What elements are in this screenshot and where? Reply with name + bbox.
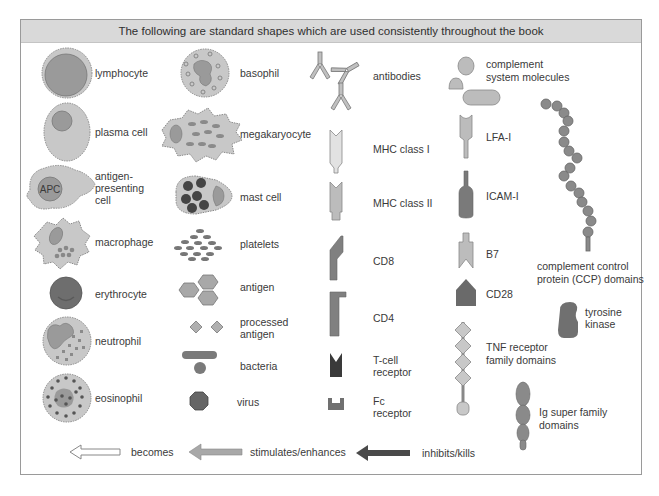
svg-text:APC: APC: [40, 184, 61, 195]
label-cd28: CD28: [486, 288, 513, 300]
basophil-icon: [181, 49, 229, 97]
label-tnf-line1: TNF receptor: [486, 341, 548, 353]
erythrocyte-icon: [50, 277, 82, 309]
label-megakaryocyte: megakaryocyte: [240, 128, 311, 140]
label-ccp-line2: protein (CCP) domains: [537, 273, 644, 285]
label-erythrocyte: erythrocyte: [95, 288, 147, 300]
label-eosinophil: eosinophil: [95, 392, 142, 404]
label-fc-line2: receptor: [373, 407, 412, 419]
label-plasma-cell: plasma cell: [95, 126, 148, 138]
label-apc-line2: presenting: [95, 182, 144, 194]
label-macrophage: macrophage: [95, 236, 153, 248]
processed-antigen-icon: [190, 321, 223, 333]
label-neutrophil: neutrophil: [95, 335, 141, 347]
mast-cell-icon: [176, 176, 232, 214]
label-complement-line2: system molecules: [486, 71, 569, 83]
label-ig-superfamily-line1: Ig super family: [539, 406, 607, 418]
platelets-icon: [174, 229, 222, 261]
mhc-class-2-icon: [330, 182, 342, 220]
icam-1-icon: [459, 171, 473, 218]
cd8-icon: [330, 236, 343, 280]
tyrosine-kinase-icon: [558, 302, 578, 338]
antibodies-icon: [310, 52, 363, 110]
antigen-icon: [179, 275, 218, 305]
label-b7: B7: [486, 248, 499, 260]
lymphocyte-icon: [42, 48, 92, 98]
label-tcr-line2: receptor: [373, 366, 412, 378]
label-apc-line3: cell: [95, 194, 111, 206]
label-becomes: becomes: [131, 446, 174, 458]
tnf-receptor-icon: [455, 322, 471, 415]
label-antibodies: antibodies: [373, 70, 421, 82]
label-apc-line1: antigen-: [95, 170, 133, 182]
label-mhc-class-1: MHC class I: [373, 143, 430, 155]
label-fc-line1: Fc: [373, 395, 385, 407]
label-tnf-line2: family domains: [486, 354, 556, 366]
apc-icon: APC: [27, 165, 95, 209]
label-mhc-class-2: MHC class II: [373, 197, 433, 209]
eosinophil-icon: [43, 374, 91, 422]
label-cd8: CD8: [373, 255, 394, 267]
cd28-icon: [456, 279, 476, 306]
label-complement-line1: complement: [486, 58, 543, 70]
label-platelets: platelets: [240, 238, 279, 250]
label-inhibits: inhibits/kills: [422, 447, 475, 459]
becomes-arrow-icon: [70, 445, 120, 459]
ig-superfamily-icon: [516, 382, 530, 450]
label-lfa-1: LFA-I: [486, 131, 511, 143]
ccp-domains-icon: [541, 99, 596, 251]
mhc-class-1-icon: [330, 130, 342, 173]
megakaryocyte-icon: [162, 108, 242, 162]
label-mast-cell: mast cell: [240, 191, 281, 203]
lfa-1-icon: [460, 115, 472, 158]
bacteria-icon: [182, 351, 217, 374]
label-icam-1: ICAM-I: [486, 190, 519, 202]
virus-icon: [190, 392, 208, 410]
b7-icon: [459, 233, 473, 268]
label-ig-superfamily-line2: domains: [539, 419, 579, 431]
neutrophil-icon: [43, 317, 91, 365]
label-processed-antigen-line1: processed: [240, 316, 288, 328]
label-antigen: antigen: [240, 281, 274, 293]
label-tyrosine-kinase-line2: kinase: [585, 318, 615, 330]
stimulates-arrow-icon: [189, 444, 242, 460]
label-ccp-line1: complement control: [537, 260, 629, 272]
fc-receptor-icon: [328, 398, 344, 410]
t-cell-receptor-icon: [330, 353, 342, 377]
label-tyrosine-kinase-line1: tyrosine: [585, 306, 622, 318]
label-stimulates: stimulates/enhances: [250, 446, 346, 458]
label-basophil: basophil: [240, 67, 279, 79]
cd4-icon: [330, 292, 346, 336]
inhibits-arrow-icon: [356, 445, 410, 461]
label-processed-antigen-line2: antigen: [240, 328, 274, 340]
macrophage-icon: [34, 218, 90, 269]
plasma-cell-icon: [44, 103, 90, 161]
label-tcr-line1: T-cell: [373, 354, 398, 366]
label-bacteria: bacteria: [240, 360, 277, 372]
label-cd4: CD4: [373, 312, 394, 324]
label-virus: virus: [237, 396, 259, 408]
label-lymphocyte: lymphocyte: [95, 67, 148, 79]
